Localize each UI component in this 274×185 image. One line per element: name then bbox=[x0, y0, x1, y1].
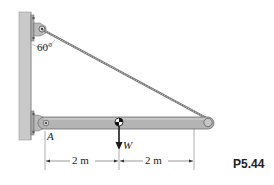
center-of-gravity-icon bbox=[115, 118, 123, 126]
problem-number: P5.44 bbox=[233, 158, 264, 170]
upper-bracket bbox=[31, 15, 46, 41]
wall bbox=[19, 12, 31, 140]
load-w-label: W bbox=[123, 140, 132, 151]
weight-arrow-icon bbox=[116, 126, 123, 150]
cable bbox=[43, 30, 208, 119]
dimension-label-2: 2 m bbox=[145, 155, 162, 166]
dimension-label-1: 2 m bbox=[72, 155, 89, 166]
beam bbox=[38, 117, 214, 129]
point-a-label: A bbox=[47, 131, 54, 142]
angle-label: 60° bbox=[37, 42, 52, 53]
